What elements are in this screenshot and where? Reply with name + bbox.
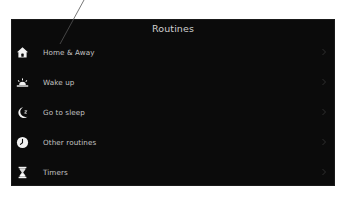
routine-label: Other routines [43, 138, 96, 147]
chevron-right-icon [321, 78, 327, 86]
hourglass-icon [16, 166, 29, 179]
routine-item-timers[interactable]: Timers [11, 157, 335, 187]
routine-item-other-routines[interactable]: Other routines [11, 127, 335, 157]
chevron-right-icon [321, 108, 327, 116]
clock-icon [16, 136, 29, 149]
routine-item-go-to-sleep[interactable]: Go to sleep [11, 97, 335, 127]
routine-item-home-away[interactable]: Home & Away [11, 37, 335, 67]
routine-item-wake-up[interactable]: Wake up [11, 67, 335, 97]
sunrise-icon [16, 76, 29, 89]
chevron-right-icon [321, 138, 327, 146]
routines-panel: Routines Home & Away [11, 19, 335, 186]
routines-list: Home & Away Wake up [11, 37, 335, 186]
screenshot-stage: Routines Home & Away [0, 0, 347, 198]
routine-label: Go to sleep [43, 108, 85, 117]
page-title: Routines [11, 21, 335, 37]
routine-label: Wake up [43, 78, 74, 87]
routine-label: Home & Away [43, 48, 95, 57]
routine-label: Timers [43, 168, 68, 177]
chevron-right-icon [321, 48, 327, 56]
home-icon [16, 46, 29, 59]
chevron-right-icon [321, 168, 327, 176]
moon-sleep-icon [16, 106, 29, 119]
